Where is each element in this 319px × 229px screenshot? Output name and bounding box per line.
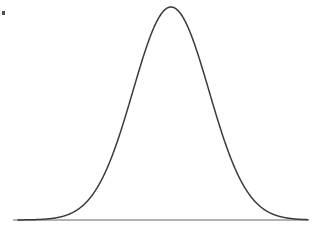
bell-curve-figure: [0, 0, 319, 229]
figure-background: [0, 0, 319, 229]
bell-curve-canvas: [0, 0, 319, 229]
scan-artifact-speck: [2, 11, 5, 15]
